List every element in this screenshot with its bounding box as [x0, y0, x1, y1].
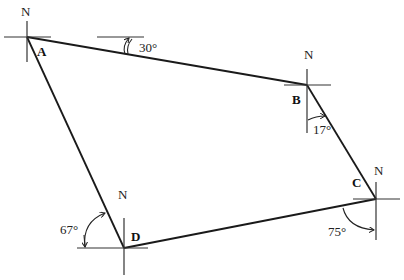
- north-label-d: N: [118, 187, 128, 202]
- angle-arc-30-b: [128, 39, 133, 54]
- north-label-b: N: [304, 47, 314, 62]
- edge-da: [27, 37, 124, 248]
- angle-arc-67: [85, 213, 105, 247]
- edge-bc: [307, 85, 376, 199]
- angle-label-75: 75°: [328, 224, 346, 239]
- angle-label-17: 17°: [313, 122, 331, 137]
- angle-arc-17: [308, 116, 325, 120]
- vertex-label-a: A: [37, 44, 47, 59]
- north-label-a: N: [21, 4, 31, 19]
- vertex-label-d: D: [131, 229, 140, 244]
- angle-arc-75: [343, 208, 374, 230]
- vertex-label-c: C: [352, 175, 361, 190]
- angle-label-30: 30°: [139, 40, 157, 55]
- north-label-c: N: [374, 163, 384, 178]
- north-cross-c: [353, 182, 400, 240]
- vertex-label-b: B: [292, 92, 301, 107]
- edge-ab: [27, 37, 307, 85]
- traverse-edges: [27, 37, 376, 248]
- angle-label-67: 67°: [60, 222, 78, 237]
- traverse-diagram: N N N N A B C D 30° 17° 75° 67°: [0, 0, 404, 280]
